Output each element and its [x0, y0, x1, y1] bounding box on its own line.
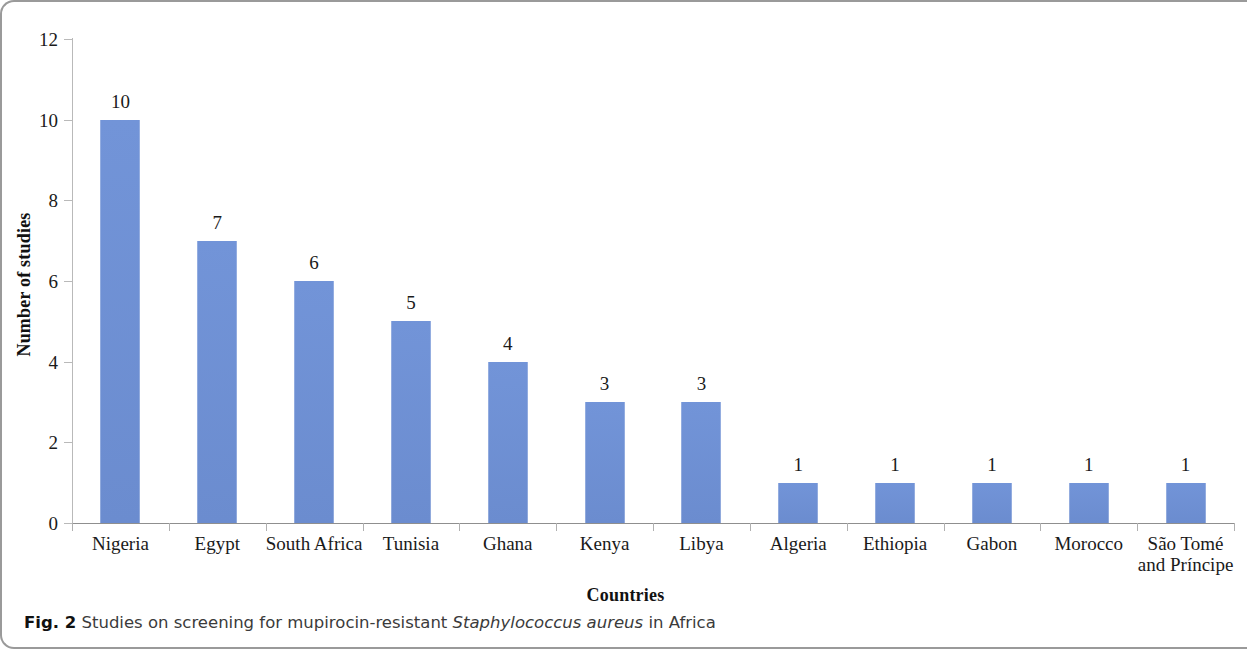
- x-axis-category-label: South Africa: [266, 533, 363, 554]
- bar[interactable]: [1166, 483, 1205, 523]
- bar-value-label: 1: [987, 455, 997, 474]
- bar[interactable]: [488, 362, 527, 523]
- x-axis-tick: [266, 523, 267, 531]
- bar[interactable]: [779, 483, 818, 523]
- bar-value-label: 10: [111, 92, 130, 111]
- figure-caption-species: Staphylococcus aureus: [453, 613, 644, 632]
- bar-slot: 5: [363, 39, 460, 523]
- y-axis-tick: [64, 281, 72, 282]
- bar-value-label: 1: [890, 455, 900, 474]
- x-axis-tick: [944, 523, 945, 531]
- bar-value-label: 3: [600, 374, 610, 393]
- bar-slot: 1: [1137, 39, 1234, 523]
- bar-value-label: 1: [1181, 455, 1191, 474]
- y-axis-tick: [64, 523, 72, 524]
- y-axis-tick-label: 0: [18, 514, 58, 533]
- x-axis-tick: [847, 523, 848, 531]
- bar-slot: 1: [750, 39, 847, 523]
- x-axis-tick: [1234, 523, 1235, 531]
- y-axis-tick-label: 10: [18, 110, 58, 129]
- y-axis-tick-label: 6: [18, 272, 58, 291]
- y-axis-tick-label: 4: [18, 352, 58, 371]
- bar-slot: 3: [653, 39, 750, 523]
- x-axis-tick: [169, 523, 170, 531]
- x-axis-category-label: Libya: [653, 533, 750, 554]
- bar[interactable]: [585, 402, 624, 523]
- bar-value-label: 3: [697, 374, 707, 393]
- x-axis-category-label: Gabon: [944, 533, 1041, 554]
- x-axis-tick: [750, 523, 751, 531]
- y-axis-tick: [64, 442, 72, 443]
- bar[interactable]: [876, 483, 915, 523]
- bar[interactable]: [1069, 483, 1108, 523]
- x-axis-tick: [1040, 523, 1041, 531]
- x-axis-category-label: Algeria: [750, 533, 847, 554]
- bar-slot: 7: [169, 39, 266, 523]
- bar-slot: 3: [556, 39, 653, 523]
- bar-value-label: 1: [793, 455, 803, 474]
- y-axis-tick-label: 2: [18, 433, 58, 452]
- x-axis-category-label: São Tomé and Príncipe: [1137, 533, 1234, 576]
- bar[interactable]: [972, 483, 1011, 523]
- figure-caption-label: Fig. 2: [24, 613, 76, 632]
- bar-value-label: 7: [212, 213, 222, 232]
- figure-caption: Fig. 2 Studies on screening for mupiroci…: [24, 613, 716, 634]
- y-axis-tick-label: 12: [18, 30, 58, 49]
- x-axis-category-label: Morocco: [1040, 533, 1137, 554]
- bar-value-label: 6: [309, 253, 319, 272]
- y-axis-tick: [64, 200, 72, 201]
- x-axis-category-label: Egypt: [169, 533, 266, 554]
- figure-container: Number of studies 121086420 107654331111…: [0, 0, 1247, 649]
- x-axis-title: Countries: [2, 585, 1247, 606]
- x-axis-tick: [653, 523, 654, 531]
- x-axis-category-label: Ethiopia: [847, 533, 944, 554]
- y-axis-tick-label: 8: [18, 191, 58, 210]
- x-axis-category-label: Kenya: [556, 533, 653, 554]
- bar-slot: 1: [847, 39, 944, 523]
- x-axis-tick: [363, 523, 364, 531]
- x-axis-category-label: Nigeria: [72, 533, 169, 554]
- bar-slot: 1: [944, 39, 1041, 523]
- x-axis-tick: [459, 523, 460, 531]
- x-axis-tick: [1137, 523, 1138, 531]
- figure-caption-text-after: in Africa: [648, 613, 715, 632]
- bar[interactable]: [295, 281, 334, 523]
- bar-slot: 1: [1040, 39, 1137, 523]
- figure-caption-text-before: Studies on screening for mupirocin-resis…: [81, 613, 447, 632]
- bar-slot: 6: [266, 39, 363, 523]
- y-axis-tick-labels: 121086420: [10, 2, 58, 649]
- y-axis-tick: [64, 362, 72, 363]
- x-axis-tick: [72, 523, 73, 531]
- x-axis-category-label: Ghana: [459, 533, 556, 554]
- bar-value-label: 4: [503, 334, 513, 353]
- bar-value-label: 1: [1084, 455, 1094, 474]
- bar[interactable]: [101, 120, 140, 523]
- bar-slot: 10: [72, 39, 169, 523]
- y-axis-tick: [64, 39, 72, 40]
- y-axis-tick: [64, 120, 72, 121]
- plot-area: 1076543311111: [72, 39, 1234, 523]
- bar-slot: 4: [459, 39, 556, 523]
- bar[interactable]: [391, 321, 430, 523]
- bar[interactable]: [198, 241, 237, 523]
- x-axis-category-label: Tunisia: [363, 533, 460, 554]
- x-axis-tick: [556, 523, 557, 531]
- bar[interactable]: [682, 402, 721, 523]
- bar-value-label: 5: [406, 293, 416, 312]
